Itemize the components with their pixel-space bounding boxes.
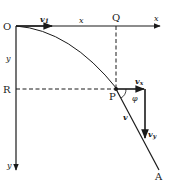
label-a: A — [154, 171, 163, 181]
trajectory-curve — [16, 26, 117, 89]
label-q: Q — [112, 12, 120, 23]
projectile-diagram: O v1 x Q x y R P vx φ v vy y A — [0, 0, 171, 181]
label-v1: v1 — [40, 14, 49, 24]
label-y-axis: y — [6, 161, 12, 170]
label-x-axis: x — [154, 14, 159, 23]
angle-arc — [121, 89, 126, 98]
label-origin: O — [3, 21, 11, 32]
label-p: P — [109, 91, 116, 102]
label-vy: vy — [148, 129, 157, 140]
label-r: R — [3, 84, 11, 95]
label-vx: vx — [135, 76, 144, 86]
label-angle: φ — [132, 94, 138, 103]
label-v: v — [123, 112, 128, 122]
label-x-segment: x — [79, 16, 84, 25]
label-y-segment: y — [5, 54, 11, 63]
